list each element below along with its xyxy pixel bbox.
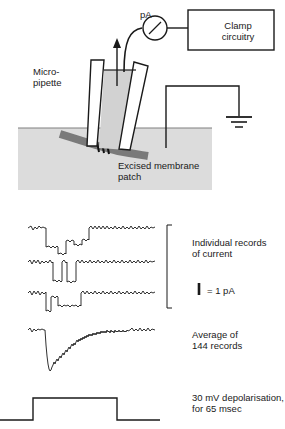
trace-voltage-step <box>0 398 160 420</box>
trace-individual-2 <box>28 260 155 283</box>
trace-individual-1 <box>28 226 155 255</box>
label-average-records: Average of 144 records <box>192 329 242 351</box>
label-clamp-circuitry: Clamp circuitry <box>205 20 271 42</box>
trace-individual-3 <box>28 291 155 312</box>
individual-records-bracket <box>167 225 172 308</box>
label-scale-bar: = 1 pA <box>207 285 235 296</box>
figure-graphics <box>0 0 285 429</box>
label-voltage-step: 30 mV depolarisation, for 65 msec <box>192 392 284 414</box>
label-excised-membrane-patch: Excised membrane patch <box>118 160 199 182</box>
ground-symbol-icon <box>226 117 252 127</box>
patch-clamp-figure: Micro- pipette pA Clamp circuitry Excise… <box>0 0 285 429</box>
trace-average <box>28 328 155 371</box>
label-ammeter-unit: pA <box>140 9 152 20</box>
label-individual-records: Individual records of current <box>192 237 266 259</box>
label-micropipette: Micro- pipette <box>33 66 62 88</box>
